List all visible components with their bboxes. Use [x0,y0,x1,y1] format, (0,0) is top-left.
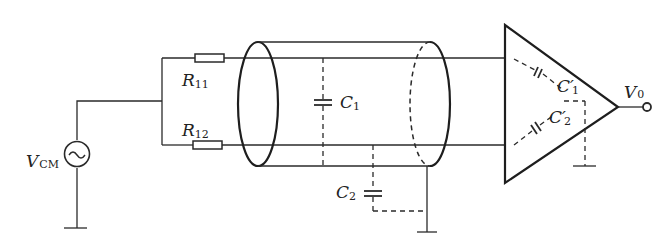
capacitor-c2-prime [514,115,554,145]
c1-prime-label: C′1 [557,76,579,97]
r12-label: R12 [181,120,209,141]
resistor-r11 [162,54,505,62]
capacitor-c1-prime [514,59,562,89]
vo-label: V0 [624,82,644,102]
capacitor-c2 [364,145,427,211]
r11-label: R11 [181,70,209,91]
c1-label: C1 [340,92,360,113]
c2-prime-label: C′2 [549,107,571,128]
amplifier-triangle [505,25,618,183]
source-branch [64,58,162,228]
capacitor-c1 [314,58,332,166]
vcm-label: VCM [26,151,59,171]
ac-source-icon [65,142,90,167]
resistor-r12 [162,141,505,149]
shield-ground-icon [417,166,437,232]
c2-label: C2 [336,182,356,203]
circuit-diagram: VCM R11 R12 C1 C2 [0,0,669,249]
output-terminal [618,103,651,111]
